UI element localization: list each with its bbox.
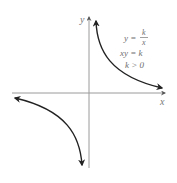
equation-annotation: y = k x xy = k k > 0: [119, 28, 148, 70]
eq-line1-denominator: x: [141, 38, 146, 47]
eq-line3: k > 0: [125, 60, 145, 70]
hyperbola-graph: y x y = k x xy = k k > 0: [0, 0, 177, 183]
y-axis-label: y: [79, 14, 85, 25]
x-axis-label: x: [159, 96, 165, 107]
eq-line1-numerator: k: [142, 28, 146, 37]
eq-line2: xy = k: [119, 48, 144, 58]
curve-branch-quadrant-3: [15, 98, 82, 165]
eq-line1-lhs: y =: [123, 33, 136, 43]
